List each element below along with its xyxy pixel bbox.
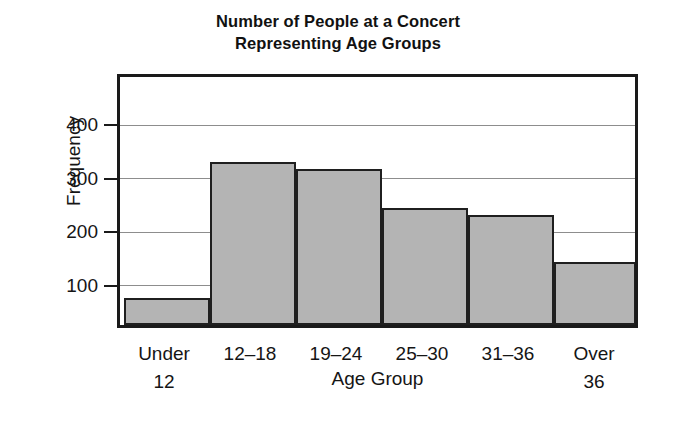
- x-category-line-1: 19–24: [293, 340, 379, 368]
- x-category-label-19-24: 19–24: [293, 340, 379, 368]
- x-axis-title: Age Group: [117, 368, 638, 390]
- y-tick-label-300: 300: [38, 169, 98, 188]
- y-tick-label-400: 400: [38, 115, 98, 134]
- y-tick-label-200: 200: [38, 222, 98, 241]
- x-category-label-31-36: 31–36: [465, 340, 551, 368]
- chart-title: Number of People at a Concert Representi…: [0, 10, 676, 55]
- y-tick-label-100: 100: [38, 276, 98, 295]
- chart-title-line-1: Number of People at a Concert: [0, 10, 676, 32]
- bar-12-18: [210, 162, 296, 325]
- x-category-label-12-18: 12–18: [207, 340, 293, 368]
- plot-inner: [120, 77, 635, 325]
- chart-title-line-2: Representing Age Groups: [0, 32, 676, 54]
- bars-layer: [120, 77, 635, 325]
- x-category-line-1: Under: [121, 340, 207, 368]
- bar-under-12: [124, 298, 210, 325]
- bar-19-24: [296, 169, 382, 325]
- bar-over-36: [554, 262, 635, 325]
- bar-25-30: [382, 208, 468, 325]
- x-category-line-1: 31–36: [465, 340, 551, 368]
- plot-area: [117, 74, 638, 328]
- x-category-line-1: Over: [551, 340, 637, 368]
- x-category-line-1: 25–30: [379, 340, 465, 368]
- y-axis-title: Frequency: [63, 81, 85, 241]
- bar-31-36: [468, 215, 554, 325]
- x-category-label-25-30: 25–30: [379, 340, 465, 368]
- x-category-line-1: 12–18: [207, 340, 293, 368]
